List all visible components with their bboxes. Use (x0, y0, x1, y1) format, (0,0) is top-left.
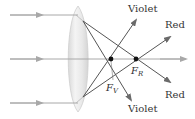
focal-point-red (134, 57, 139, 62)
incident-rays (10, 15, 186, 103)
refracted-rays (83, 20, 170, 100)
label-red-top: Red (165, 19, 185, 30)
bottom-ray-red (83, 37, 170, 97)
chromatic-aberration-diagram: Violet Red Red Violet FR FV (0, 0, 195, 119)
label-violet-top: Violet (127, 3, 157, 14)
top-ray-red (83, 21, 170, 82)
label-red-bottom: Red (165, 89, 185, 100)
label-focal-red: FR (130, 65, 144, 78)
label-focal-violet: FV (105, 82, 119, 95)
focal-point-violet (109, 57, 114, 62)
label-violet-bottom: Violet (127, 103, 157, 114)
